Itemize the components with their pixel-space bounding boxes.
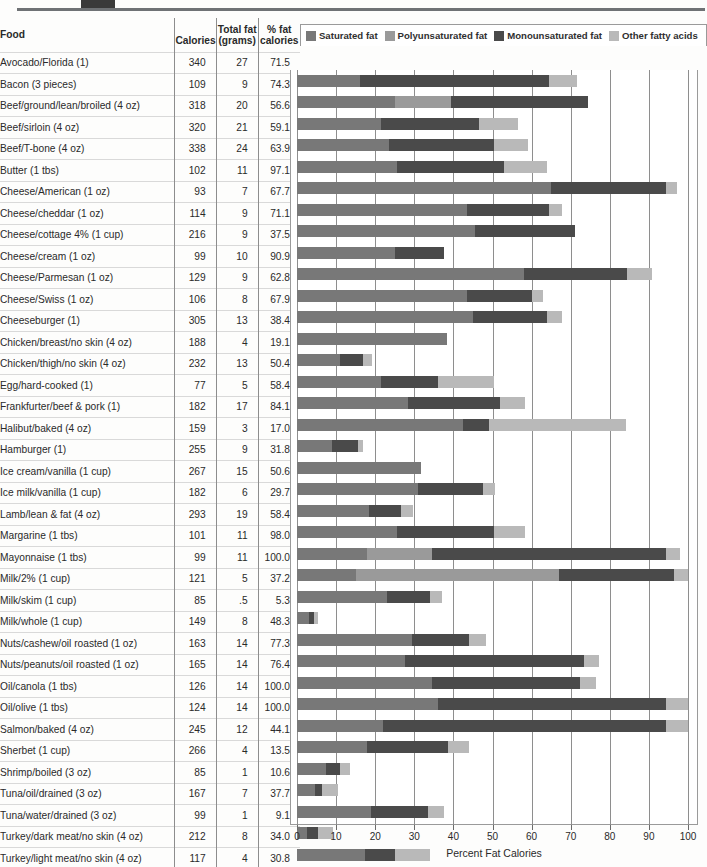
cell-calories: 212 xyxy=(175,826,216,848)
cell-total-fat-grams: 4 xyxy=(216,740,258,762)
cell-food-name: Nuts/peanuts/oil roasted (1 oz) xyxy=(0,654,175,676)
stacked-bar xyxy=(297,290,543,302)
cell-total-fat-grams: 10 xyxy=(216,246,258,268)
bar-row xyxy=(290,414,698,436)
bar-segment xyxy=(551,182,666,194)
cell-calories: 318 xyxy=(175,95,216,117)
cell-food-name: Lamb/lean & fat (4 oz) xyxy=(0,504,175,526)
bar-segment xyxy=(479,118,518,130)
bar-segment xyxy=(297,376,381,388)
cell-calories: 121 xyxy=(175,568,216,590)
cell-total-fat-grams: 11 xyxy=(216,525,258,547)
stacked-bar xyxy=(297,569,688,581)
column-header-pct-fat-line1: % fat xyxy=(259,24,300,35)
cell-food-name: Turkey/dark meat/no skin (4 oz) xyxy=(0,826,175,848)
cell-calories: 93 xyxy=(175,181,216,203)
cell-total-fat-grams: 1 xyxy=(216,805,258,827)
cell-calories: 182 xyxy=(175,482,216,504)
axis-tick-label: 100 xyxy=(680,831,697,842)
stacked-bar xyxy=(297,741,469,753)
cell-food-name: Shrimp/boiled (3 oz) xyxy=(0,762,175,784)
cell-total-fat-grams: 6 xyxy=(216,482,258,504)
bar-segment xyxy=(500,397,525,409)
decoration-rule xyxy=(17,8,705,11)
bar-segment xyxy=(315,784,323,796)
stacked-bar xyxy=(297,720,688,732)
axis-tick-label: 80 xyxy=(604,831,615,842)
stacked-bar xyxy=(297,591,442,603)
stacked-bar xyxy=(297,376,494,388)
cell-food-name: Salmon/baked (4 oz) xyxy=(0,719,175,741)
cell-food-name: Cheese/Swiss (1 oz) xyxy=(0,289,175,311)
cell-food-name: Hamburger (1) xyxy=(0,439,175,461)
axis-tick xyxy=(571,825,572,830)
bar-segment xyxy=(297,655,405,667)
cell-total-fat-grams: 8 xyxy=(216,611,258,633)
bar-segment xyxy=(297,419,463,431)
cell-calories: 77 xyxy=(175,375,216,397)
stacked-bar xyxy=(297,655,599,667)
cell-food-name: Ice milk/vanilla (1 cup) xyxy=(0,482,175,504)
cell-calories: 188 xyxy=(175,332,216,354)
bar-segment xyxy=(322,784,338,796)
chart-page: Food Calories Total fat (grams) % fat ca… xyxy=(0,0,707,867)
cell-total-fat-grams: 4 xyxy=(216,848,258,867)
cell-calories: 216 xyxy=(175,224,216,246)
bar-row xyxy=(290,500,698,522)
cell-food-name: Margarine (1 tbs) xyxy=(0,525,175,547)
bar-row xyxy=(290,801,698,823)
cell-calories: 245 xyxy=(175,719,216,741)
stacked-bar xyxy=(297,354,372,366)
column-header-calories: Calories xyxy=(175,18,216,52)
bar-row xyxy=(290,758,698,780)
bar-segment xyxy=(367,548,432,560)
cell-calories: 163 xyxy=(175,633,216,655)
bar-row xyxy=(290,285,698,307)
cell-food-name: Tuna/water/drained (3 oz) xyxy=(0,805,175,827)
bar-segment xyxy=(297,311,473,323)
bar-row xyxy=(290,199,698,221)
cell-calories: 85 xyxy=(175,762,216,784)
bar-segment xyxy=(297,96,395,108)
table-header-row: Food Calories Total fat (grams) % fat ca… xyxy=(0,18,707,52)
bar-segment xyxy=(494,526,525,538)
bar-row xyxy=(290,522,698,544)
cell-food-name: Mayonnaise (1 tbs) xyxy=(0,547,175,569)
bar-segment xyxy=(369,505,401,517)
cell-calories: 232 xyxy=(175,353,216,375)
stacked-bar xyxy=(297,505,413,517)
stacked-bar xyxy=(297,268,652,280)
cell-food-name: Butter (1 tbs) xyxy=(0,160,175,182)
bar-segment xyxy=(451,96,587,108)
bar-segment xyxy=(340,354,363,366)
cell-food-name: Beef/sirloin (4 oz) xyxy=(0,117,175,139)
bar-segment xyxy=(549,204,562,216)
bar-segment xyxy=(332,440,357,452)
bar-row xyxy=(290,586,698,608)
cell-total-fat-grams: 14 xyxy=(216,633,258,655)
axis-tick xyxy=(493,825,494,830)
axis-tick xyxy=(414,825,415,830)
stacked-bar xyxy=(297,483,495,495)
axis-tick xyxy=(297,825,298,830)
bar-segment xyxy=(297,505,369,517)
cell-calories: 102 xyxy=(175,160,216,182)
cell-food-name: Chicken/thigh/no skin (4 oz) xyxy=(0,353,175,375)
bar-row xyxy=(290,264,698,286)
cell-food-name: Chicken/breast/no skin (4 oz) xyxy=(0,332,175,354)
bar-segment xyxy=(297,526,397,538)
cell-total-fat-grams: 14 xyxy=(216,676,258,698)
bar-row xyxy=(290,780,698,802)
cell-calories: 117 xyxy=(175,848,216,867)
page-decoration xyxy=(0,0,707,16)
chart-plot-area xyxy=(290,70,698,825)
legend-swatch-icon xyxy=(385,31,395,41)
cell-total-fat-grams: 11 xyxy=(216,547,258,569)
bar-segment xyxy=(381,118,479,130)
axis-tick-label: 70 xyxy=(565,831,576,842)
bar-segment xyxy=(356,569,559,581)
bar-segment xyxy=(580,677,595,689)
cell-total-fat-grams: .5 xyxy=(216,590,258,612)
cell-total-fat-grams: 5 xyxy=(216,568,258,590)
cell-total-fat-grams: 8 xyxy=(216,289,258,311)
